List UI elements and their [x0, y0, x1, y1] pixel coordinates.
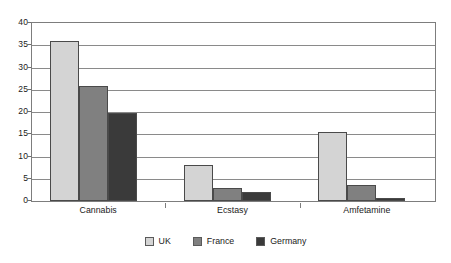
legend-swatch-icon	[145, 237, 154, 246]
bar-group-cannabis	[32, 23, 166, 201]
bar-cannabis-germany	[108, 113, 137, 201]
bar-ecstasy-france	[213, 188, 242, 201]
legend-label: France	[207, 236, 234, 246]
bar-group-amfetamine	[301, 23, 435, 201]
bar-ecstasy-germany	[242, 192, 271, 201]
legend-swatch-icon	[256, 237, 265, 246]
bar-ecstasy-uk	[184, 165, 213, 201]
bar-cannabis-france	[79, 86, 108, 201]
bar-chart: 0510152025303540 CannabisEcstasyAmfetami…	[0, 0, 451, 263]
legend-item-germany[interactable]: Germany	[256, 236, 306, 246]
x-axis-labels: CannabisEcstasyAmfetamine	[31, 205, 436, 219]
plot-area	[31, 22, 436, 202]
x-axis-label-cannabis: Cannabis	[31, 205, 165, 215]
chart-legend: UKFranceGermany	[0, 233, 451, 249]
x-axis-label-amfetamine: Amfetamine	[300, 205, 434, 215]
legend-item-uk[interactable]: UK	[145, 236, 171, 246]
bar-amfetamine-uk	[318, 132, 347, 201]
bar-amfetamine-france	[347, 185, 376, 201]
legend-label: Germany	[270, 236, 306, 246]
legend-label: UK	[159, 236, 171, 246]
legend-swatch-icon	[193, 237, 202, 246]
x-axis-label-ecstasy: Ecstasy	[165, 205, 299, 215]
bar-cannabis-uk	[50, 41, 79, 201]
bar-amfetamine-germany	[376, 198, 405, 201]
y-axis-ticks	[0, 22, 31, 202]
bar-group-ecstasy	[166, 23, 300, 201]
legend-item-france[interactable]: France	[193, 236, 234, 246]
